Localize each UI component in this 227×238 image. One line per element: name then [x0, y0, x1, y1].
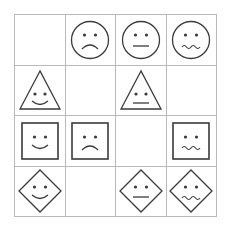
triangle-happy-face-icon	[16, 66, 64, 114]
grid-cell-r1-c2	[66, 15, 117, 66]
grid-cell-r1-c3	[116, 15, 167, 66]
grid-cell-r1-c4	[167, 15, 218, 66]
grid-cell-r4-c4	[167, 167, 218, 218]
square-happy-face-icon	[16, 117, 64, 165]
grid-cell-r3-c3	[116, 116, 167, 167]
diamond-worried-face-icon	[167, 167, 215, 215]
grid-cell-r4-c3	[116, 167, 167, 218]
triangle-neutral-face-icon	[117, 66, 165, 114]
grid-cell-r2-c4	[167, 66, 218, 117]
circle-worried-face-icon	[167, 16, 215, 64]
diamond-happy-face-icon	[16, 167, 64, 215]
grid-cell-r4-c1	[15, 167, 66, 218]
grid-cell-r4-c2	[66, 167, 117, 218]
grid-cell-r3-c2	[66, 116, 117, 167]
grid-cell-r3-c4	[167, 116, 218, 167]
grid-cell-r1-c1	[15, 15, 66, 66]
square-worried-face-icon	[167, 117, 215, 165]
shape-emotion-grid	[14, 14, 217, 217]
grid-cell-r2-c1	[15, 66, 66, 117]
square-sad-face-icon	[66, 117, 114, 165]
circle-sad-face-icon	[66, 16, 114, 64]
circle-neutral-face-icon	[117, 16, 165, 64]
grid-cell-r3-c1	[15, 116, 66, 167]
grid-cell-r2-c2	[66, 66, 117, 117]
diamond-neutral-face-icon	[117, 167, 165, 215]
grid-cell-r2-c3	[116, 66, 167, 117]
